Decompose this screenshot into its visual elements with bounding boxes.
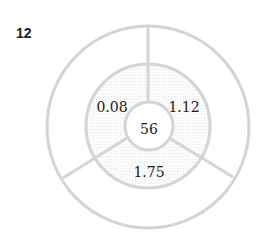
segment-value-upper-left: 0.08 [96,99,127,115]
center-value: 56 [140,121,158,137]
segment-value-bottom: 1.75 [133,164,164,180]
ring-diagram: 0.08 1.12 56 1.75 [0,0,260,240]
segment-value-upper-right: 1.12 [168,99,199,115]
